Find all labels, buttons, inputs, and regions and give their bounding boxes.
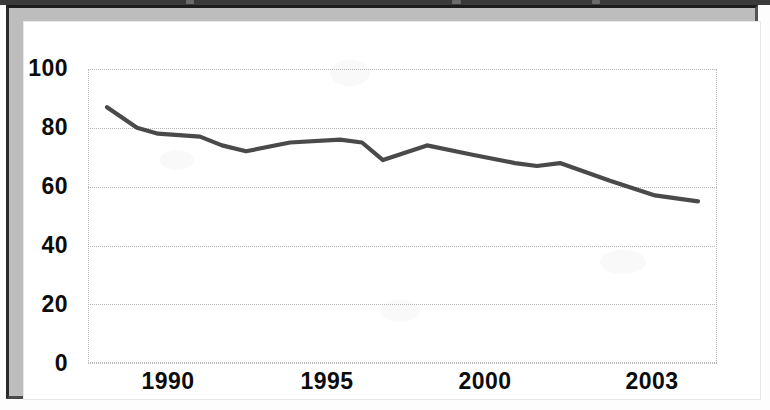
x-axis-label-2003: 2003 <box>592 370 712 393</box>
y-axis-label-20: 20 <box>0 293 68 316</box>
gridline-80 <box>88 128 717 129</box>
y-axis-label-80: 80 <box>0 116 68 139</box>
gridline-0 <box>88 363 717 364</box>
gridline-40 <box>88 246 717 247</box>
gridline-20 <box>88 304 717 305</box>
y-axis-label-0: 0 <box>0 352 68 375</box>
x-axis-label-1990: 1990 <box>108 370 228 393</box>
gridline-60 <box>88 187 717 188</box>
x-axis-label-1995: 1995 <box>267 370 387 393</box>
gridline-100 <box>88 69 717 70</box>
plot-area-border <box>88 69 717 363</box>
y-axis-label-40: 40 <box>0 234 68 257</box>
x-axis-label-2000: 2000 <box>425 370 545 393</box>
line-chart: 100 80 60 40 20 0 1990 1995 2000 2003 <box>0 0 770 410</box>
y-axis-label-60: 60 <box>0 175 68 198</box>
y-axis-label-100: 100 <box>0 57 68 80</box>
screenshot-root: 100 80 60 40 20 0 1990 1995 2000 2003 <box>0 0 770 410</box>
